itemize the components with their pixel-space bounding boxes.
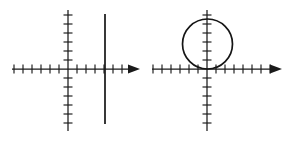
left-x-axis-arrowhead <box>128 65 140 74</box>
left-graph-svg <box>0 0 143 141</box>
left-figure-panel <box>0 0 143 141</box>
right-graph-svg <box>143 0 286 141</box>
right-figure-panel <box>143 0 286 141</box>
right-x-axis-arrowhead <box>270 65 282 74</box>
figure-pair <box>0 0 286 141</box>
